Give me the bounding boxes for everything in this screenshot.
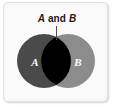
caption-conjunction: and xyxy=(45,13,69,24)
venn-label-b: B xyxy=(73,56,81,68)
venn-diagram-figure: A B A and B xyxy=(0,0,114,107)
leader-line xyxy=(56,26,57,40)
venn-label-a: A xyxy=(30,56,38,68)
figure-caption: A and B xyxy=(0,13,114,25)
caption-set-a: A xyxy=(38,13,45,24)
caption-set-b: B xyxy=(69,13,76,24)
